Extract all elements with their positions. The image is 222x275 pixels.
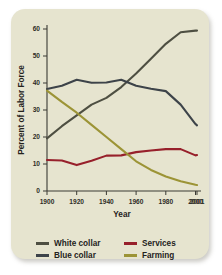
legend-swatch-farming [124,254,137,257]
y-tick-label: 40 [33,79,41,86]
x-axis-ticks: 1900192019401960198020002001 [40,191,205,205]
y-tick-label: 60 [33,25,41,32]
legend-item-farming[interactable]: Farming [124,251,174,260]
legend-swatch-blue-collar [36,254,49,257]
legend-item-white-collar[interactable]: White collar [36,239,124,248]
series-line-services [47,149,197,165]
legend-row: White collar Services [36,237,206,249]
legend-swatch-services [124,242,137,245]
y-tick-label: 50 [33,52,41,59]
x-tick-label: 1920 [69,198,84,205]
y-tick-label: 10 [33,160,41,167]
legend-item-blue-collar[interactable]: Blue collar [36,251,124,260]
legend-label-services: Services [142,239,176,248]
data-series-group [47,31,197,185]
legend-label-farming: Farming [142,251,174,260]
y-axis-ticks: 0102030405060 [33,25,47,194]
line-chart-svg: 0102030405060 19001920194019601980200020… [11,9,209,259]
x-axis-title: Year [113,210,131,219]
series-line-farming [47,91,197,186]
legend-label-white-collar: White collar [54,239,100,248]
legend-label-blue-collar: Blue collar [54,251,96,260]
legend-swatch-white-collar [36,242,49,245]
chart-card: 0102030405060 19001920194019601980200020… [11,9,209,259]
series-line-white-collar [47,31,197,139]
y-axis-title: Percent of Labor Force [17,65,26,155]
chart-plot-area: 0102030405060 19001920194019601980200020… [11,9,209,259]
x-tick-label: 1940 [99,198,114,205]
chart-legend: White collar Services Blue collar Farmin… [36,237,206,261]
x-tick-label: 1960 [129,198,144,205]
y-tick-label: 30 [33,106,41,113]
y-tick-label: 0 [36,187,40,194]
x-tick-label: 1900 [40,198,55,205]
legend-row: Blue collar Farming [36,249,206,261]
legend-item-services[interactable]: Services [124,239,176,248]
y-tick-label: 20 [33,133,41,140]
x-tick-label: 2001 [190,198,205,205]
x-tick-label: 1980 [158,198,173,205]
